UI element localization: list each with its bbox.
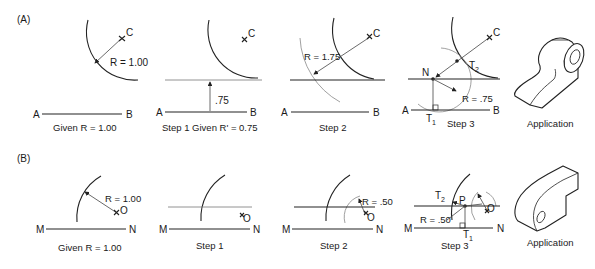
center-cross-icon — [119, 36, 125, 41]
bracket-body — [515, 166, 578, 231]
radius-label: R = .75 — [462, 93, 493, 104]
center-label: O — [243, 213, 251, 224]
given-arc — [201, 175, 225, 221]
panel-a-step1: C .75 A B Step 1 Given R' = 0.75 — [156, 20, 262, 133]
radius-label: R = 1.75 — [304, 51, 340, 62]
center-cross-icon — [367, 34, 372, 39]
line-start-label: A — [402, 105, 409, 116]
caption-application: Application — [527, 118, 573, 129]
offset-label: .75 — [215, 95, 229, 106]
tangent1-label: T1 — [426, 113, 436, 126]
center-cross-icon — [487, 35, 492, 40]
panel-b-step2: O R = .50 M N Step 2 — [282, 175, 393, 251]
panel-a-step2: C R = 1.75 A B Step 2 — [281, 18, 385, 133]
panel-a-application: Application — [515, 38, 588, 129]
center-label: C — [126, 27, 133, 38]
line-end-label: N — [376, 224, 383, 235]
caption-given: Given R = 1.00 — [58, 242, 122, 253]
caption-application: Application — [527, 237, 573, 248]
line-end-label: N — [253, 224, 260, 235]
caption-step3: Step 3 — [441, 240, 468, 251]
panel-b-step3: O P T2 R = .50 M N T1 Step 3 — [404, 174, 504, 251]
panel-b-application: Application — [515, 166, 578, 248]
point-label: P — [459, 195, 466, 206]
tangent-point-t2 — [455, 59, 459, 63]
panel-a-label: (A) — [17, 14, 30, 25]
radius-dimension — [433, 79, 456, 91]
panel-b-label: (B) — [17, 153, 30, 164]
line-start-label: A — [156, 107, 163, 118]
radius-label: R = .50 — [420, 214, 451, 225]
tangent2-label: T2 — [435, 190, 445, 203]
given-arc — [326, 175, 350, 221]
caption-step2: Step 2 — [319, 122, 346, 133]
center-cross-icon — [114, 210, 119, 215]
caption-step1: Step 1 Given R' = 0.75 — [162, 122, 258, 133]
center-cross-icon — [242, 37, 247, 42]
line-start-label: M — [159, 224, 167, 235]
center-label: C — [373, 28, 380, 39]
line-start-label: M — [36, 224, 44, 235]
line-start-label: A — [281, 107, 288, 118]
right-angle-mark — [433, 105, 438, 110]
radius-label: R = 1.00 — [105, 193, 141, 204]
line-end-label: N — [497, 223, 504, 234]
line-end-label: B — [493, 105, 500, 116]
line-start-label: A — [33, 109, 40, 120]
center-label: C — [248, 28, 255, 39]
line-start-label: M — [282, 224, 290, 235]
panel-b-step1: O M N Step 1 — [159, 175, 260, 251]
radius-label: R = .50 — [362, 196, 393, 207]
given-arc — [77, 176, 101, 222]
panel-a-step3: C N T2 R = .75 A B T1 Step 3 — [402, 17, 500, 129]
construction-arc — [344, 196, 360, 223]
line-end-label: N — [129, 224, 136, 235]
caption-step3: Step 3 — [447, 118, 474, 129]
line-start-label: M — [404, 223, 412, 234]
panel-a-given: C R = 1.00 A B Given R = 1.00 — [33, 20, 149, 133]
line-end-label: B — [250, 107, 257, 118]
panel-b-given: O R = 1.00 M N Given R = 1.00 — [36, 176, 141, 253]
tangent2-label: T2 — [469, 60, 479, 73]
center-label: O — [367, 212, 375, 223]
right-angle-mark — [460, 223, 465, 228]
center-label: O — [120, 205, 128, 216]
caption-step2: Step 2 — [320, 240, 347, 251]
tangent-arc-construction-diagram: (A) C R = 1.00 A B Given R = 1.00 C .75 … — [0, 0, 595, 269]
line-end-label: B — [126, 109, 133, 120]
center-label: C — [493, 27, 500, 38]
center-connector — [436, 37, 490, 77]
caption-step1: Step 1 — [196, 240, 223, 251]
radius-label: R = 1.00 — [110, 57, 149, 68]
caption-given: Given R = 1.00 — [53, 122, 117, 133]
line-end-label: B — [373, 107, 380, 118]
center-label: O — [487, 203, 495, 214]
point-label: N — [422, 67, 429, 78]
